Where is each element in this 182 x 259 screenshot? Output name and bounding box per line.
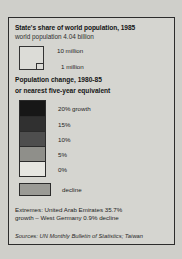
extremes-line-1: Extremes: United Arab Emirates 35.7%	[15, 206, 168, 214]
page-subtitle: world population 4.04 billion	[15, 32, 168, 41]
symbol-size-key: 10 million 1 million	[15, 44, 168, 74]
size-label-10-million: 10 million	[57, 47, 83, 54]
legend-panel-page: State's share of world population, 1985 …	[0, 0, 182, 259]
decline-key: decline	[19, 183, 168, 197]
legend-frame: State's share of world population, 1985 …	[8, 17, 175, 245]
page-title: State's share of world population, 1985	[15, 23, 168, 32]
decline-swatch	[19, 183, 51, 196]
ramp-label: 20% growth	[58, 105, 91, 112]
size-swatch-1-million	[36, 63, 44, 70]
ramp-row: 15%	[20, 116, 45, 131]
extremes-line-2: growth – West Germany 0.9% decline	[15, 214, 168, 222]
ramp-row: 20% growth	[20, 101, 45, 116]
ramp-label: 0%	[58, 166, 67, 173]
size-label-1-million: 1 million	[61, 63, 84, 70]
extremes-note: Extremes: United Arab Emirates 35.7% gro…	[15, 206, 168, 223]
section-heading-line-1: Population change, 1980-85	[15, 76, 168, 85]
ramp-row: 5%	[20, 146, 45, 161]
color-ramp-key: 20% growth 15% 10% 5% 0%	[19, 100, 46, 177]
ramp-label: 10%	[58, 136, 70, 143]
ramp-row: 0%	[20, 161, 45, 176]
decline-label: decline	[62, 186, 82, 193]
sources-note: Sources: UN Monthly Bulletin of Statisti…	[15, 232, 168, 240]
ramp-label: 15%	[58, 121, 70, 128]
section-heading-line-2: or nearest five-year equivalent	[15, 87, 168, 96]
ramp-label: 5%	[58, 151, 67, 158]
ramp-row: 10%	[20, 131, 45, 146]
